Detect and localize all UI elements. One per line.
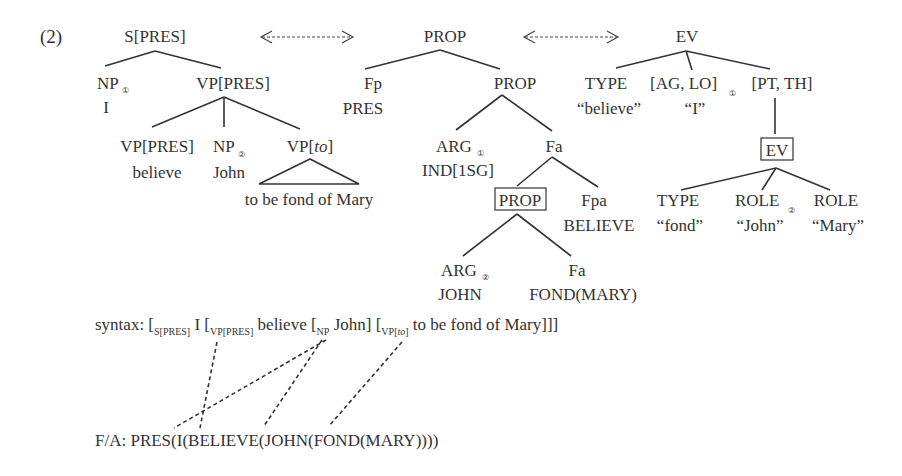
link-john [329,342,402,426]
syntax-bracketing: syntax: [S[PRES] I [VP[PRES] believe [NP… [95,315,558,337]
diagram-canvas: (2) S[PRES] NP ① I VP[PRES] VP[PRES] bel… [0,0,902,476]
node-arg2: ARG [441,261,477,280]
node-arg1: ARG [436,137,472,156]
edge [440,50,500,69]
index-1: ① [729,89,736,98]
node-fa-1: Fa [546,137,563,156]
node-vp-pres: VP[PRES] [196,74,270,93]
node-np2: NP [213,137,235,156]
correspondence-lines [174,340,402,428]
value-john-quoted: “John” [736,216,783,235]
node-fpa: Fpa [581,191,607,210]
node-type-1: TYPE [585,74,628,93]
edge [686,51,692,70]
node-type-2: TYPE [657,191,700,210]
value-believe: BELIEVE [564,216,635,235]
edge [105,51,155,66]
index-2: ② [238,150,245,159]
index-1: ① [477,149,484,158]
node-vp-to: VP[to] [287,137,333,156]
edge [517,157,552,186]
node-role-2: ROLE [814,191,858,210]
link-i [200,342,217,428]
double-arrow-icon [261,31,353,43]
node-s-pres: S[PRES] [124,27,185,46]
value-ind-1sg: IND[1SG] [422,161,494,180]
value-mary-quoted: “Mary” [812,216,864,235]
value-fond-quoted: “fond” [657,216,703,235]
edge [463,214,517,256]
edge [686,51,770,69]
node-ev-root: EV [676,27,699,46]
value-pres: PRES [343,99,384,118]
index-1: ① [122,86,129,95]
edge [365,50,440,69]
triangle-abbrev [259,159,359,184]
edge [776,168,830,190]
node-vp-pres-child: VP[PRES] [120,137,194,156]
edge [552,157,598,187]
edge [456,95,502,130]
value-fond-mary: FOND(MARY) [529,285,637,304]
index-2: ② [788,206,795,215]
node-role-1: ROLE [735,191,779,210]
value-i-quoted: “I” [685,99,706,118]
word-believe: believe [132,163,181,182]
node-fa-2: Fa [569,261,586,280]
node-prop-boxed: PROP [499,191,542,210]
edge [681,168,776,190]
node-ag-lo: [AG, LO] [650,74,717,93]
ev-tree: EV TYPE “believe” [AG, LO] ① “I” [PT, TH… [577,27,864,235]
fa-formula: F/A: PRES(I(BELIEVE(JOHN(FOND(MARY)))) [95,431,438,450]
index-2: ② [482,273,489,282]
node-ev-boxed: EV [766,141,789,160]
node-np1: NP [97,74,119,93]
node-fp: Fp [364,74,382,93]
node-pt-th: [PT, TH] [752,74,813,93]
double-arrow-icon [524,31,618,43]
edge [616,51,686,68]
node-prop-root: PROP [424,27,467,46]
link-believe [264,340,322,426]
syntax-tree: S[PRES] NP ① I VP[PRES] VP[PRES] believe… [97,27,374,209]
link-believe-pres [174,340,326,428]
word-john: John [213,163,246,182]
edge [502,95,552,131]
edge [224,97,300,129]
prop-tree: PROP Fp PRES PROP ARG ① IND[1SG] Fa PROP… [343,27,637,304]
edge [152,97,224,127]
example-number: (2) [40,26,62,48]
edge [155,51,221,68]
node-prop-2: PROP [494,74,537,93]
value-believe-quoted: “believe” [577,99,641,118]
word-i: I [103,98,109,117]
word-to-be-fond-of-mary: to be fond of Mary [245,190,374,209]
value-john: JOHN [438,285,481,304]
